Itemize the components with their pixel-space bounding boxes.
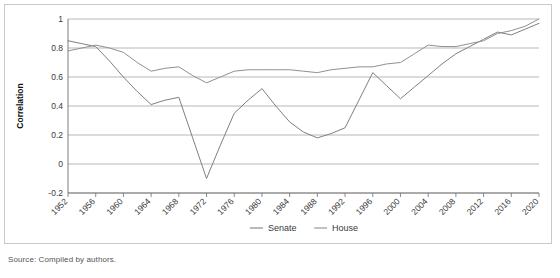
x-tick-label: 2016 — [492, 196, 513, 217]
legend-label-senate: Senate — [268, 223, 297, 233]
source-note: Source: Compiled by authors. — [8, 255, 116, 264]
x-tick-label: 2004 — [409, 196, 430, 217]
x-tick-label: 1968 — [160, 196, 181, 217]
y-tick-labels: -0.200.20.40.60.81 — [48, 14, 63, 198]
y-tick-label: 0.8 — [51, 43, 63, 53]
x-tick-label: 1964 — [132, 196, 153, 217]
y-tick-label: 1 — [58, 14, 63, 24]
x-tick-label: 2012 — [465, 196, 486, 217]
series-line-house — [68, 19, 539, 83]
x-tick-label: 1952 — [49, 196, 70, 217]
x-tick-label: 1972 — [187, 196, 208, 217]
x-tick-marks — [68, 193, 539, 197]
x-tick-label: 2020 — [520, 196, 541, 217]
y-tick-label: 0.4 — [51, 101, 63, 111]
chart-frame: -0.200.20.40.60.81 195219561960196419681… — [4, 4, 552, 244]
chart-plot: -0.200.20.40.60.81 195219561960196419681… — [5, 5, 551, 243]
y-axis-title-text: Correlation — [15, 83, 25, 128]
series-line-senate — [68, 23, 539, 178]
x-tick-label: 1996 — [354, 196, 375, 217]
gridlines — [68, 19, 539, 193]
x-tick-label: 2008 — [437, 196, 458, 217]
x-tick-label: 1980 — [243, 196, 264, 217]
x-tick-label: 2000 — [381, 196, 402, 217]
y-tick-label: 0.2 — [51, 130, 63, 140]
x-tick-labels: 1952195619601964196819721976198019841988… — [49, 196, 541, 217]
data-series — [68, 19, 539, 179]
x-tick-label: 1956 — [77, 196, 98, 217]
x-tick-label: 1984 — [271, 196, 292, 217]
y-axis-title: Correlation — [15, 83, 25, 128]
x-tick-label: 1988 — [298, 196, 319, 217]
y-tick-label: 0.6 — [51, 72, 63, 82]
x-tick-label: 1960 — [104, 196, 125, 217]
x-tick-label: 1992 — [326, 196, 347, 217]
x-tick-label: 1976 — [215, 196, 236, 217]
legend-label-house: House — [332, 223, 358, 233]
y-tick-label: 0 — [58, 159, 63, 169]
chart-legend: SenateHouse — [250, 223, 358, 233]
figure-container: -0.200.20.40.60.81 195219561960196419681… — [0, 0, 560, 278]
